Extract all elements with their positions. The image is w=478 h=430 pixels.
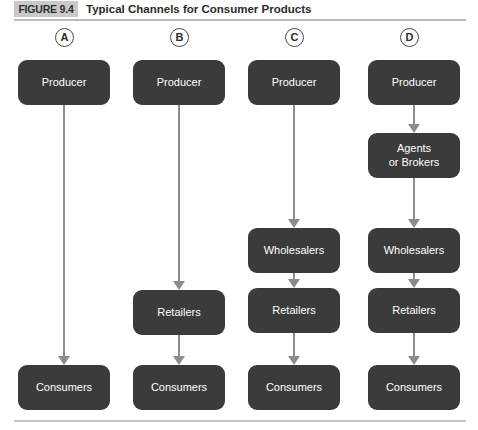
- node-d-wholesalers: Wholesalers: [368, 228, 460, 273]
- header-divider: [14, 19, 466, 21]
- figure-title: Typical Channels for Consumer Products: [86, 1, 311, 17]
- node-a-consumers: Consumers: [18, 365, 110, 410]
- figure-container: FIGURE 9.4 Typical Channels for Consumer…: [0, 0, 478, 430]
- arrow-d-agents-to-wholesalers: [407, 178, 421, 228]
- node-c-consumers: Consumers: [248, 365, 340, 410]
- node-c-wholesalers: Wholesalers: [248, 228, 340, 273]
- node-d-consumers: Consumers: [368, 365, 460, 410]
- node-b-retailers: Retailers: [133, 290, 225, 335]
- node-d-producer: Producer: [368, 60, 460, 105]
- node-c-retailers: Retailers: [248, 288, 340, 333]
- arrow-a-producer-to-consumers: [57, 105, 71, 365]
- node-b-consumers: Consumers: [133, 365, 225, 410]
- arrow-d-wholesalers-to-retailers: [407, 273, 421, 288]
- arrow-c-retailers-to-consumers: [287, 333, 301, 365]
- arrow-c-producer-to-wholesalers: [287, 105, 301, 228]
- arrow-d-retailers-to-consumers: [407, 333, 421, 365]
- arrow-b-producer-to-retailers: [172, 105, 186, 290]
- column-label-a: A: [55, 28, 74, 47]
- column-label-c: C: [285, 28, 304, 47]
- column-label-b: B: [170, 28, 189, 47]
- node-b-producer: Producer: [133, 60, 225, 105]
- footer-divider: [14, 420, 466, 422]
- figure-number-badge: FIGURE 9.4: [14, 1, 78, 17]
- node-d-retailers: Retailers: [368, 288, 460, 333]
- node-d-agents-or-brokers: Agents or Brokers: [368, 133, 460, 178]
- node-c-producer: Producer: [248, 60, 340, 105]
- arrow-c-wholesalers-to-retailers: [287, 273, 301, 288]
- arrow-b-retailers-to-consumers: [172, 335, 186, 365]
- node-a-producer: Producer: [18, 60, 110, 105]
- arrow-d-producer-to-agents: [407, 105, 421, 133]
- column-label-d: D: [400, 28, 419, 47]
